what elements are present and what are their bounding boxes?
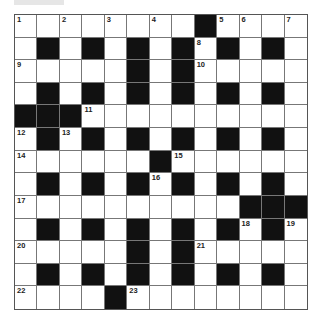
answer-cell[interactable] [150, 219, 172, 242]
answer-cell[interactable] [240, 83, 262, 106]
answer-cell[interactable] [60, 173, 82, 196]
answer-cell[interactable] [285, 264, 307, 287]
answer-cell[interactable] [195, 128, 217, 151]
answer-cell[interactable] [217, 105, 239, 128]
answer-cell[interactable] [172, 15, 194, 38]
answer-cell[interactable]: 4 [150, 15, 172, 38]
answer-cell[interactable] [60, 60, 82, 83]
answer-cell[interactable] [60, 83, 82, 106]
answer-cell[interactable] [150, 105, 172, 128]
answer-cell[interactable] [37, 60, 59, 83]
answer-cell[interactable] [105, 105, 127, 128]
answer-cell[interactable] [262, 241, 284, 264]
answer-cell[interactable] [60, 286, 82, 309]
answer-cell[interactable]: 22 [15, 286, 37, 309]
answer-cell[interactable] [105, 241, 127, 264]
answer-cell[interactable] [105, 38, 127, 61]
answer-cell[interactable]: 8 [195, 38, 217, 61]
answer-cell[interactable] [217, 60, 239, 83]
answer-cell[interactable] [240, 128, 262, 151]
answer-cell[interactable] [240, 286, 262, 309]
answer-cell[interactable] [195, 173, 217, 196]
answer-cell[interactable] [240, 264, 262, 287]
answer-cell[interactable] [127, 196, 149, 219]
answer-cell[interactable]: 11 [82, 105, 104, 128]
answer-cell[interactable] [285, 286, 307, 309]
answer-cell[interactable]: 3 [105, 15, 127, 38]
answer-cell[interactable] [60, 151, 82, 174]
answer-cell[interactable]: 9 [15, 60, 37, 83]
answer-cell[interactable] [217, 151, 239, 174]
answer-cell[interactable] [262, 286, 284, 309]
answer-cell[interactable] [150, 128, 172, 151]
answer-cell[interactable] [285, 83, 307, 106]
answer-cell[interactable] [172, 105, 194, 128]
answer-cell[interactable] [15, 219, 37, 242]
answer-cell[interactable]: 13 [60, 128, 82, 151]
answer-cell[interactable] [195, 286, 217, 309]
answer-cell[interactable] [150, 264, 172, 287]
answer-cell[interactable] [240, 173, 262, 196]
answer-cell[interactable] [217, 241, 239, 264]
answer-cell[interactable] [60, 241, 82, 264]
answer-cell[interactable] [15, 38, 37, 61]
answer-cell[interactable] [37, 286, 59, 309]
answer-cell[interactable] [285, 241, 307, 264]
answer-cell[interactable] [82, 15, 104, 38]
answer-cell[interactable] [37, 15, 59, 38]
answer-cell[interactable] [37, 151, 59, 174]
answer-cell[interactable] [82, 196, 104, 219]
answer-cell[interactable]: 19 [285, 219, 307, 242]
answer-cell[interactable] [262, 151, 284, 174]
answer-cell[interactable] [82, 241, 104, 264]
answer-cell[interactable] [105, 173, 127, 196]
answer-cell[interactable] [60, 38, 82, 61]
answer-cell[interactable] [240, 151, 262, 174]
answer-cell[interactable] [37, 241, 59, 264]
answer-cell[interactable]: 21 [195, 241, 217, 264]
answer-cell[interactable] [82, 286, 104, 309]
answer-cell[interactable] [195, 83, 217, 106]
answer-cell[interactable] [217, 286, 239, 309]
answer-cell[interactable] [60, 196, 82, 219]
answer-cell[interactable] [240, 60, 262, 83]
answer-cell[interactable]: 7 [285, 15, 307, 38]
answer-cell[interactable] [105, 83, 127, 106]
answer-cell[interactable] [195, 151, 217, 174]
answer-cell[interactable] [262, 60, 284, 83]
answer-cell[interactable]: 20 [15, 241, 37, 264]
answer-cell[interactable] [105, 60, 127, 83]
answer-cell[interactable] [60, 219, 82, 242]
answer-cell[interactable] [285, 151, 307, 174]
answer-cell[interactable] [82, 60, 104, 83]
answer-cell[interactable]: 16 [150, 173, 172, 196]
answer-cell[interactable]: 14 [15, 151, 37, 174]
answer-cell[interactable]: 18 [240, 219, 262, 242]
answer-cell[interactable] [262, 15, 284, 38]
answer-cell[interactable] [285, 60, 307, 83]
answer-cell[interactable] [127, 15, 149, 38]
answer-cell[interactable] [37, 196, 59, 219]
answer-cell[interactable] [285, 105, 307, 128]
answer-cell[interactable] [150, 196, 172, 219]
answer-cell[interactable] [105, 264, 127, 287]
answer-cell[interactable] [240, 105, 262, 128]
answer-cell[interactable] [105, 128, 127, 151]
answer-cell[interactable] [150, 83, 172, 106]
answer-cell[interactable]: 5 [217, 15, 239, 38]
answer-cell[interactable] [82, 151, 104, 174]
answer-cell[interactable] [217, 196, 239, 219]
answer-cell[interactable] [150, 38, 172, 61]
answer-cell[interactable] [150, 241, 172, 264]
answer-cell[interactable] [60, 264, 82, 287]
answer-cell[interactable] [15, 264, 37, 287]
answer-cell[interactable] [127, 105, 149, 128]
answer-cell[interactable]: 12 [15, 128, 37, 151]
answer-cell[interactable] [15, 83, 37, 106]
answer-cell[interactable] [105, 151, 127, 174]
answer-cell[interactable] [195, 105, 217, 128]
answer-cell[interactable]: 23 [127, 286, 149, 309]
answer-cell[interactable] [285, 38, 307, 61]
answer-cell[interactable] [285, 173, 307, 196]
answer-cell[interactable] [15, 173, 37, 196]
